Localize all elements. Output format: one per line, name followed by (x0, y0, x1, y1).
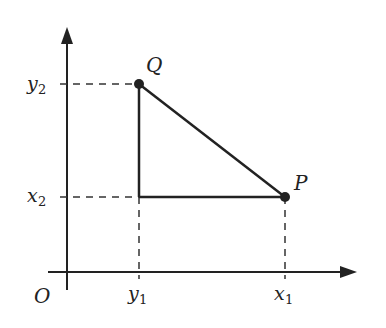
guide-lines (60, 84, 285, 279)
segment-QP (139, 84, 285, 197)
x-axis (48, 266, 357, 278)
svg-text:2: 2 (38, 82, 46, 97)
svg-text:1: 1 (285, 292, 293, 307)
label-Q: Q (146, 53, 162, 77)
y-axis-arrow-icon (61, 27, 73, 44)
svg-text:x: x (27, 184, 38, 206)
xtick-y1: y 1 (127, 282, 147, 307)
point-Q (134, 79, 144, 89)
x-axis-arrow-icon (340, 266, 357, 278)
svg-text:2: 2 (38, 194, 46, 209)
triangle (139, 84, 285, 197)
svg-text:y: y (26, 72, 38, 94)
svg-text:1: 1 (139, 292, 147, 307)
label-P: P (293, 171, 308, 195)
coordinate-diagram: Q P y 2 x 2 y 1 x 1 O (0, 0, 386, 328)
origin-label: O (34, 284, 50, 308)
ytick-x2: x 2 (27, 184, 46, 209)
xtick-x1: x 1 (274, 282, 293, 307)
svg-text:x: x (274, 282, 285, 304)
svg-text:y: y (127, 282, 139, 304)
point-P (280, 192, 290, 202)
ytick-y2: y 2 (26, 72, 46, 97)
y-axis (61, 27, 73, 290)
